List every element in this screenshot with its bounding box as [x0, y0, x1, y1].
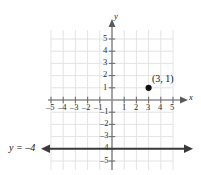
y-axis — [109, 19, 116, 170]
x-axis — [48, 97, 188, 104]
y-tick-label-1: 1 — [103, 83, 107, 92]
point-coordinate-label: (3, 1) — [152, 74, 174, 84]
x-tick-label-1: 1 — [122, 103, 126, 112]
y-tick-label--5: –5 — [100, 156, 109, 165]
y-axis-label: y — [114, 12, 118, 21]
y-tick-label--3: –3 — [100, 131, 109, 140]
x-tick-label-4: 4 — [158, 103, 162, 112]
x-tick-label--4: –4 — [58, 103, 67, 112]
y-tick-label-4: 4 — [103, 46, 107, 55]
y-tick-label-2: 2 — [103, 70, 107, 79]
y-tick-label--2: –2 — [100, 119, 109, 128]
line-equation-label: y = –4 — [9, 143, 35, 153]
x-tick-label-3: 3 — [146, 103, 150, 112]
y-tick-label--1: –1 — [100, 107, 109, 116]
x-tick-label--3: –3 — [70, 103, 79, 112]
x-tick-label-2: 2 — [134, 103, 138, 112]
y-tick-label-5: 5 — [103, 34, 107, 43]
x-tick-label--2: –2 — [82, 103, 91, 112]
coordinate-plane-figure: x y –5 –4 –3 –2 –1 1 2 3 4 5 5 4 3 2 1 –… — [0, 0, 201, 175]
horizontal-line-y-equals-negative-4 — [41, 145, 193, 153]
plotted-point — [146, 85, 152, 91]
x-tick-label--5: –5 — [46, 103, 55, 112]
y-tick-label-3: 3 — [103, 58, 107, 67]
x-axis-label: x — [189, 93, 193, 102]
x-tick-label-5: 5 — [170, 103, 174, 112]
y-tick-label--4: –4 — [100, 143, 109, 152]
